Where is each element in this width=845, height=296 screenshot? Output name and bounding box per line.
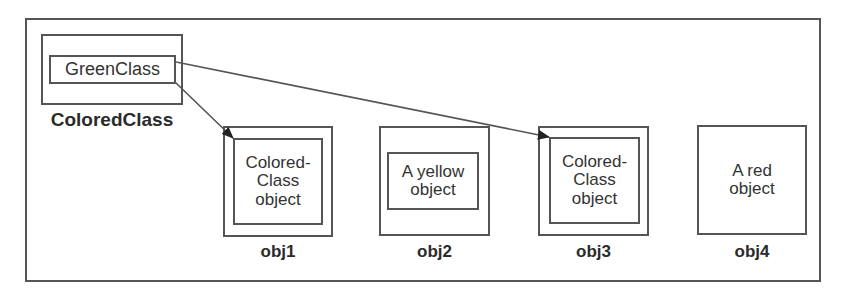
arrow-green-to-obj3 [176,62,549,137]
arrow-green-to-obj1 [175,82,233,138]
arrows-layer [0,0,845,296]
